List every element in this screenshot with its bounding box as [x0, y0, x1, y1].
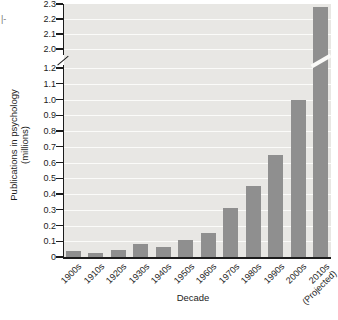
y-tick-label: 2.0 — [24, 44, 56, 54]
y-tick-label: 0.8 — [24, 126, 56, 136]
bar-1960s — [201, 233, 216, 258]
y-tick — [56, 3, 63, 4]
bar-2000s — [291, 100, 306, 259]
y-tick — [56, 18, 63, 19]
y-tick-label: 2.2 — [24, 14, 56, 24]
y-axis-title-line1: Publications in psychology — [8, 89, 19, 200]
y-tick — [56, 241, 63, 242]
y-tick-label: 0.7 — [24, 142, 56, 152]
bar-1970s — [223, 208, 238, 258]
y-tick-label: 1.2 — [24, 63, 56, 73]
y-tick — [56, 193, 63, 194]
y-tick — [56, 115, 63, 116]
y-tick — [56, 130, 63, 131]
grid-line — [64, 34, 331, 35]
y-tick-label: 1.1 — [24, 79, 56, 89]
y-tick — [56, 99, 63, 100]
bar-2010s — [313, 7, 328, 258]
y-tick-label: 0.4 — [24, 189, 56, 199]
y-tick-label: 0.5 — [24, 173, 56, 183]
y-tick-label: 0 — [24, 252, 56, 262]
y-tick — [56, 67, 63, 68]
grid-line — [64, 49, 331, 50]
y-tick — [56, 162, 63, 163]
grid-line — [64, 84, 331, 85]
y-tick — [56, 83, 63, 84]
grid-line — [64, 19, 331, 20]
y-tick — [56, 178, 63, 179]
y-tick-label: 0.3 — [24, 205, 56, 215]
x-axis-line — [63, 257, 332, 259]
bar-1990s — [268, 155, 283, 258]
y-tick — [56, 33, 63, 34]
y-axis-line-upper — [63, 4, 65, 55]
y-axis-line-lower — [63, 65, 65, 259]
y-tick — [56, 256, 63, 257]
bar-1950s — [178, 240, 193, 258]
y-tick-label: 0.6 — [24, 158, 56, 168]
y-tick-label: 2.3 — [24, 0, 56, 9]
y-tick-label: 0.2 — [24, 221, 56, 231]
y-tick-label: 0.9 — [24, 110, 56, 120]
y-tick — [56, 209, 63, 210]
x-tick-label-1920s: 1920s — [0, 262, 129, 320]
y-tick — [56, 146, 63, 147]
bar-1980s — [246, 186, 261, 258]
bar-1930s — [133, 244, 148, 258]
y-tick-label: 0.1 — [24, 236, 56, 246]
y-tick-label: 2.1 — [24, 29, 56, 39]
y-tick — [56, 225, 63, 226]
y-tick-label: 1.0 — [24, 95, 56, 105]
grid-line — [64, 68, 331, 69]
y-tick — [56, 48, 63, 49]
page-text-fragment: |- — [1, 15, 6, 24]
